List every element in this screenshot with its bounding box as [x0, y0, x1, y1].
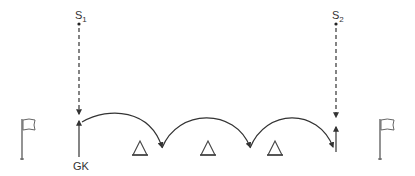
player-s1: S1 — [75, 9, 87, 26]
player-s2: S2 — [332, 9, 344, 26]
player-dot — [77, 22, 80, 25]
arc-jump-3 — [250, 118, 333, 148]
cone-icon — [267, 141, 283, 155]
cone-icon — [132, 141, 148, 155]
right-flag-icon — [378, 119, 394, 160]
player-dot — [334, 22, 337, 25]
svg-text:S1: S1 — [75, 9, 87, 24]
arc-jump-2 — [162, 118, 250, 148]
left-flag-icon — [20, 119, 35, 160]
arc-jump-1 — [82, 113, 162, 147]
svg-text:S2: S2 — [332, 9, 344, 24]
cone-icon — [200, 141, 216, 155]
gk-label: GK — [73, 160, 90, 172]
drill-diagram: S1 S2 GK — [0, 0, 415, 176]
